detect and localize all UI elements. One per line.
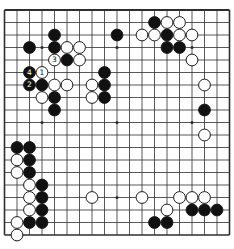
hoshi-point (190, 121, 193, 124)
go-board[interactable]: 3412 (0, 0, 234, 249)
white-stone-circle (11, 154, 23, 166)
white-stone-circle (36, 92, 48, 104)
white-stone-circle (199, 129, 211, 141)
stone-black (49, 92, 61, 104)
black-stone-circle (49, 104, 61, 116)
stone-white (199, 192, 211, 204)
stone-black-numbered-4: 4 (24, 67, 36, 79)
stone-black (24, 142, 36, 154)
stone-white (199, 129, 211, 141)
stone-white (11, 229, 23, 241)
stone-white (24, 179, 36, 191)
white-stone-circle (161, 17, 173, 29)
white-stone-circle (199, 79, 211, 91)
stone-black (149, 217, 161, 229)
stone-black (49, 29, 61, 41)
stone-black (161, 29, 173, 41)
white-stone-circle (149, 29, 161, 41)
stone-black (49, 42, 61, 54)
stone-black (149, 17, 161, 29)
stone-white (174, 17, 186, 29)
stone-black (161, 42, 173, 54)
white-stone-circle (86, 79, 98, 91)
move-number-label: 2 (27, 80, 32, 89)
hoshi-point (190, 46, 193, 49)
move-number-label: 1 (40, 68, 45, 77)
stone-white (86, 92, 98, 104)
stone-white (24, 204, 36, 216)
stone-white (11, 167, 23, 179)
white-stone-circle (136, 29, 148, 41)
stone-black (161, 217, 173, 229)
white-stone-circle (24, 179, 36, 191)
black-stone-circle (199, 204, 211, 216)
move-number-label: 3 (52, 55, 57, 64)
stone-black (11, 142, 23, 154)
stone-white (24, 192, 36, 204)
stone-black (174, 42, 186, 54)
black-stone-circle (36, 79, 48, 91)
stone-black-numbered-2: 2 (24, 79, 36, 91)
white-stone-circle (186, 54, 198, 66)
stone-white (74, 42, 86, 54)
black-stone-circle (49, 42, 61, 54)
black-stone-circle (36, 204, 48, 216)
hoshi-point (115, 46, 118, 49)
go-board-diagram: 3412 (0, 0, 234, 249)
white-stone-circle (74, 42, 86, 54)
stone-black (111, 29, 123, 41)
black-stone-circle (199, 104, 211, 116)
stone-black (61, 54, 73, 66)
stone-black (36, 217, 48, 229)
white-stone-circle (186, 192, 198, 204)
stone-white (136, 29, 148, 41)
stone-white (86, 79, 98, 91)
black-stone-circle (24, 217, 36, 229)
hoshi-point (115, 196, 118, 199)
white-stone-circle (161, 204, 173, 216)
black-stone-circle (49, 29, 61, 41)
white-stone-circle (11, 217, 23, 229)
stone-white (161, 17, 173, 29)
move-number-label: 4 (27, 68, 32, 77)
black-stone-circle (161, 217, 173, 229)
black-stone-circle (99, 92, 111, 104)
black-stone-circle (49, 92, 61, 104)
black-stone-circle (174, 42, 186, 54)
hoshi-point (115, 121, 118, 124)
stone-white (174, 192, 186, 204)
black-stone-circle (36, 217, 48, 229)
stone-black (24, 217, 36, 229)
stone-white (136, 192, 148, 204)
white-stone-circle (186, 29, 198, 41)
stone-black (199, 204, 211, 216)
black-stone-circle (149, 217, 161, 229)
stone-white (186, 54, 198, 66)
stone-black (199, 104, 211, 116)
stone-black (24, 167, 36, 179)
stone-black (99, 79, 111, 91)
white-stone-circle (61, 42, 73, 54)
stone-white (199, 79, 211, 91)
black-stone-circle (111, 29, 123, 41)
stone-white (61, 42, 73, 54)
stone-white-numbered-1: 1 (36, 67, 48, 79)
white-stone-circle (24, 204, 36, 216)
stone-black (211, 204, 223, 216)
black-stone-circle (24, 42, 36, 54)
black-stone-circle (99, 79, 111, 91)
stone-white (149, 29, 161, 41)
stone-black (36, 192, 48, 204)
black-stone-circle (99, 67, 111, 79)
white-stone-circle (86, 192, 98, 204)
white-stone-circle (24, 192, 36, 204)
stone-white (49, 79, 61, 91)
hoshi-point (40, 121, 43, 124)
stone-black (36, 79, 48, 91)
white-stone-circle (174, 192, 186, 204)
stone-white (11, 154, 23, 166)
white-stone-circle (11, 167, 23, 179)
stone-black (36, 179, 48, 191)
black-stone-circle (186, 204, 198, 216)
black-stone-circle (36, 179, 48, 191)
